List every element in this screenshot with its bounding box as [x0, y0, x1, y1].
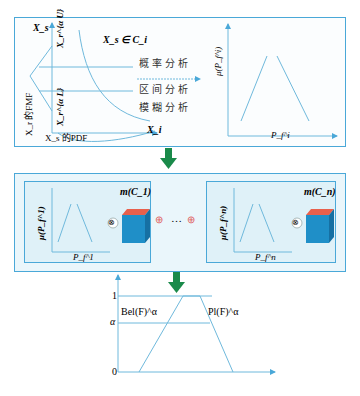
component-box-n: ⊗ m(C_n) μ(P_f^n) P_f^n [206, 181, 336, 263]
tick-1: 1 [112, 290, 117, 301]
pdf-label: X_s 的PDF [45, 131, 87, 144]
mass-label-n: m(C_n) [304, 186, 336, 197]
otimes-symbol-n: ⊗ [292, 218, 299, 227]
mu-label-n: μ(P_f^n) [218, 206, 228, 240]
pl-label: Pl(F)^α [208, 306, 239, 317]
otimes-symbol-1: ⊗ [108, 218, 115, 227]
bel-label: Bel(F)^α [121, 306, 157, 317]
ellipsis: … [171, 212, 182, 224]
pf-label: P_f^i [271, 130, 290, 140]
pf-label-1: P_f^1 [73, 252, 94, 262]
fmf-label: X_r 的FMF [22, 93, 35, 136]
pf-label-n: P_f^n [255, 252, 276, 262]
oplus-2: ⊕ [187, 214, 195, 225]
component-box-1: ⊗ m(C_1) μ(P_f^1) P_f^1 [24, 181, 151, 263]
method-probability: 概率分析 [139, 55, 191, 70]
mass-label-1: m(C_1) [120, 186, 151, 197]
middle-panel: ⊗ m(C_1) μ(P_f^1) P_f^1 ⊕ … ⊕ ⊗ m(C_n) μ… [14, 173, 346, 272]
top-panel: X_s X_s ∈ C_i X_r^{α U} X_r^{α L} X_r 的F… [14, 17, 346, 147]
xi-axis-label: X_i [147, 124, 161, 135]
mu-pf-label: μ(P_f^i) [213, 47, 223, 76]
tick-0: 0 [112, 366, 117, 377]
set-label: X_s ∈ C_i [103, 34, 147, 45]
lower-bound-label: X_r^{α L} [55, 88, 65, 126]
method-fuzzy: 模糊分析 [139, 99, 191, 114]
tick-alpha: α [110, 316, 115, 327]
method-interval: 区间分析 [139, 81, 191, 96]
mu-label-1: μ(P_f^1) [36, 206, 46, 240]
upper-bound-label: X_r^{α U} [55, 9, 65, 48]
xs-axis-label: X_s [33, 22, 49, 33]
down-arrow-1 [160, 148, 178, 170]
oplus-1: ⊕ [155, 214, 163, 225]
